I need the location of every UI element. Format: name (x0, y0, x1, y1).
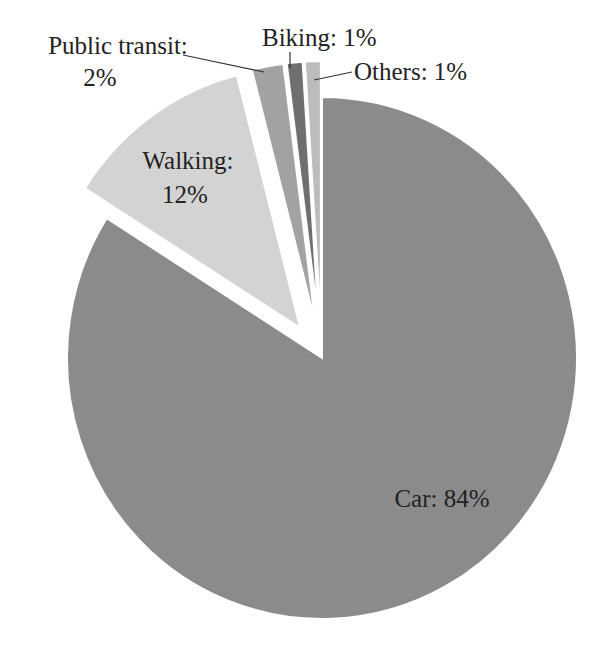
label-biking: Biking: 1% (262, 24, 377, 51)
leader-line-public-transit (183, 55, 264, 72)
pie-slices (67, 61, 577, 619)
label-others: Others: 1% (354, 58, 467, 85)
label-public-transit: Public transit: (48, 32, 188, 59)
label-car: Car: 84% (394, 485, 489, 512)
label-walking-value: 12% (162, 181, 208, 208)
pie-chart: Public transit: 2% Biking: 1% Others: 1%… (0, 0, 608, 656)
label-public-transit-value: 2% (83, 64, 116, 91)
label-walking: Walking: (142, 147, 233, 174)
